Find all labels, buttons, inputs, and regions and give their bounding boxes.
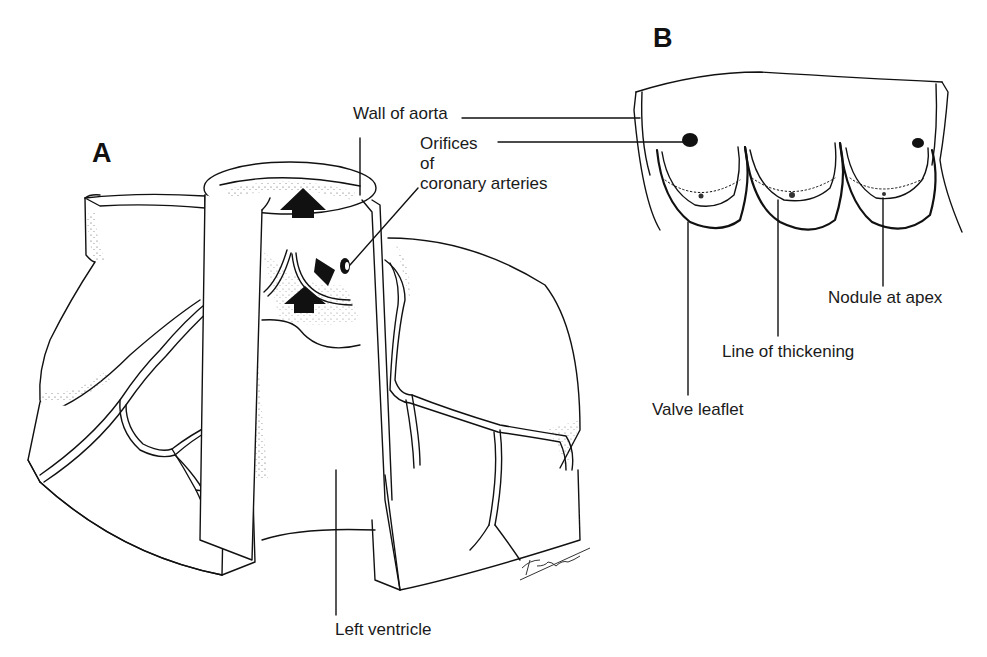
label-left-ventricle: Left ventricle	[335, 620, 431, 640]
artist-signature	[520, 548, 590, 580]
label-line-of-thickening: Line of thickening	[722, 342, 854, 362]
panel-letter-b: B	[653, 25, 673, 52]
aortic-valve-figure: A B Wall of aorta Orifices of coronary a…	[0, 0, 987, 657]
panel-letter-a: A	[92, 140, 112, 167]
label-valve-leaflet: Valve leaflet	[652, 400, 743, 420]
label-orifices-line-2: of	[420, 154, 610, 174]
label-orifices-of-coronary-arteries: Orifices of coronary arteries	[420, 134, 610, 194]
label-orifices-line-1: Orifices	[420, 134, 610, 154]
label-nodule-at-apex: Nodule at apex	[828, 288, 942, 308]
label-orifices-line-3: coronary arteries	[420, 174, 610, 194]
illustration	[0, 0, 987, 657]
label-wall-of-aorta: Wall of aorta	[353, 104, 448, 124]
